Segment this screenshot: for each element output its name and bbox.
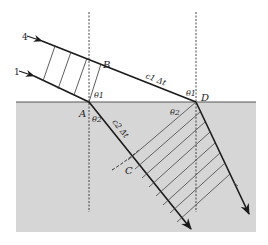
medium-2-region [16, 102, 256, 232]
ray-1-label: 1 [14, 67, 20, 77]
point-B-label: B [102, 59, 110, 70]
point-C-label: C [125, 165, 133, 176]
ray-4-label: 4 [22, 32, 28, 42]
point-A-label: A [78, 108, 86, 119]
point-D-label: D [200, 92, 209, 103]
ray-1-incident-arrow [19, 71, 34, 76]
refraction-diagram: 4 1 B A D C θ1 θ2 θ1 θ2 c1 Δt c2 Δt [0, 0, 268, 245]
ray-4-incident [42, 41, 196, 102]
ray-4-incident-arrow [27, 36, 42, 41]
theta1-D-label: θ1 [186, 89, 196, 98]
theta2-A-label: θ2 [92, 115, 102, 124]
segment-BD-label: c1 Δt [144, 71, 168, 87]
theta2-D-label: θ2 [170, 108, 180, 117]
theta1-A-label: θ1 [94, 91, 104, 100]
